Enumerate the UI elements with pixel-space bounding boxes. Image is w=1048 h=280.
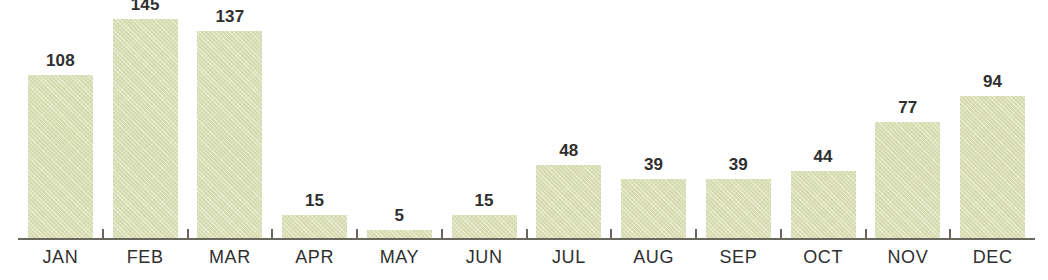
- bar[interactable]: 137: [197, 31, 262, 238]
- bar-value-label: 44: [814, 147, 833, 167]
- bar-series: 10814513715515483939447794: [18, 8, 1035, 238]
- x-axis-category-labels: JANFEBMARAPRMAYJUNJULAUGSEPOCTNOVDEC: [18, 245, 1035, 275]
- x-axis-tick: [949, 229, 951, 238]
- bar-value-label: 39: [644, 155, 663, 175]
- x-axis-tick: [441, 229, 443, 238]
- x-axis-tick: [610, 229, 612, 238]
- x-axis-category-label: APR: [272, 245, 357, 275]
- bar-value-label: 108: [46, 51, 75, 71]
- x-axis-tick: [102, 229, 104, 238]
- bar[interactable]: 77: [875, 122, 940, 239]
- bar-value-label: 15: [305, 191, 324, 211]
- bar-value-label: 15: [475, 191, 494, 211]
- x-axis-category-label: JUL: [527, 245, 612, 275]
- bar-value-label: 94: [983, 72, 1002, 92]
- bar-value-label: 5: [395, 206, 405, 226]
- x-axis-category-label: DEC: [950, 245, 1035, 275]
- plot-area: 10814513715515483939447794: [18, 8, 1035, 238]
- x-axis-category-label: NOV: [866, 245, 951, 275]
- bar-value-label: 77: [898, 98, 917, 118]
- bar-slot: 39: [611, 8, 696, 238]
- bar-slot: 94: [950, 8, 1035, 238]
- bar-slot: 77: [866, 8, 951, 238]
- bar-value-label: 48: [559, 141, 578, 161]
- bar[interactable]: 48: [536, 165, 601, 238]
- bar-slot: 145: [103, 8, 188, 238]
- bar-slot: 5: [357, 8, 442, 238]
- bar-value-label: 137: [216, 7, 245, 27]
- x-axis-category-label: FEB: [103, 245, 188, 275]
- bar[interactable]: 108: [28, 75, 93, 238]
- x-axis-category-label: JUN: [442, 245, 527, 275]
- bar-slot: 108: [18, 8, 103, 238]
- bar-slot: 15: [272, 8, 357, 238]
- x-axis-tick: [356, 229, 358, 238]
- bar-slot: 15: [442, 8, 527, 238]
- x-axis-category-label: OCT: [781, 245, 866, 275]
- bar-slot: 48: [527, 8, 612, 238]
- x-axis-line: [18, 238, 1035, 240]
- bar-slot: 39: [696, 8, 781, 238]
- x-axis-tick: [865, 229, 867, 238]
- x-axis-category-label: MAR: [188, 245, 273, 275]
- bar[interactable]: 94: [960, 96, 1025, 238]
- x-axis-ticks: [18, 229, 1035, 238]
- x-axis-tick: [187, 229, 189, 238]
- x-axis-tick: [695, 229, 697, 238]
- bar-value-label: 145: [131, 0, 160, 15]
- x-axis-category-label: JAN: [18, 245, 103, 275]
- x-axis-tick: [780, 229, 782, 238]
- x-axis-category-label: AUG: [611, 245, 696, 275]
- x-axis-tick: [526, 229, 528, 238]
- bar-value-label: 39: [729, 155, 748, 175]
- x-axis-tick: [271, 229, 273, 238]
- x-axis-category-label: MAY: [357, 245, 442, 275]
- bar[interactable]: 145: [113, 19, 178, 238]
- bar[interactable]: 44: [791, 171, 856, 238]
- bar-slot: 44: [781, 8, 866, 238]
- x-axis-category-label: SEP: [696, 245, 781, 275]
- bar-slot: 137: [188, 8, 273, 238]
- bar-chart: 10814513715515483939447794 JANFEBMARAPRM…: [0, 0, 1048, 280]
